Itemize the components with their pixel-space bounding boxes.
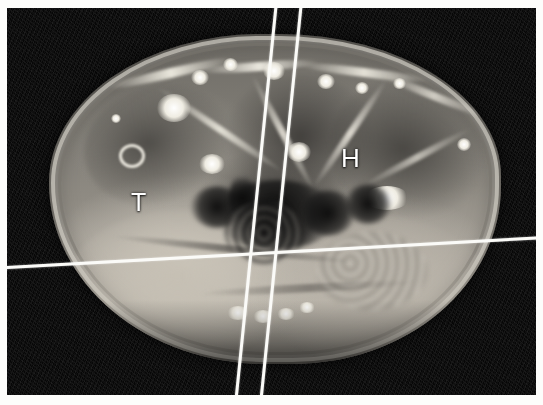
bright-focus-6 (355, 82, 369, 94)
inferior-shadow (49, 300, 501, 364)
bright-focus-3 (223, 58, 238, 71)
bright-focus-2 (191, 70, 209, 85)
bright-focus-epiphysis (287, 142, 311, 162)
bright-focus-central-cortex (199, 154, 225, 174)
bright-focus-small-left (111, 114, 121, 123)
cortical-bone-far-right (345, 184, 391, 224)
mri-image-viewer: T H (0, 0, 543, 405)
bright-focus-7 (393, 78, 406, 89)
bright-focus-vessel-lateral (457, 138, 471, 151)
limb-cross-section (49, 34, 501, 364)
vessel-ring-left (119, 144, 145, 168)
bright-focus-5 (317, 74, 335, 89)
annotation-label-t: T (131, 190, 147, 215)
bright-focus-1 (157, 94, 191, 122)
annotation-label-h: H (341, 145, 360, 171)
scan-frame: T H (7, 8, 536, 395)
